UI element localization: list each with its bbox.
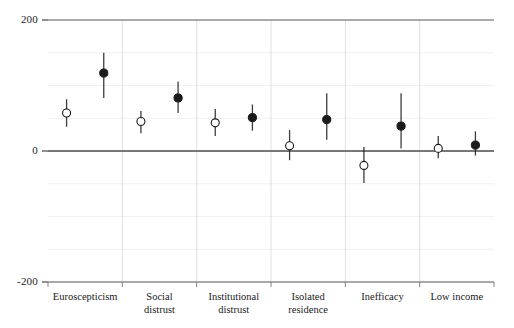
x-tick-label-4: Isolatedresidence	[271, 290, 345, 316]
filled-circle-marker	[248, 113, 256, 121]
y-tick-label-200: 200	[0, 13, 38, 25]
data-point-group	[100, 53, 108, 98]
data-point-group	[397, 93, 405, 148]
open-circle-marker	[360, 161, 368, 169]
data-point-group	[63, 99, 71, 127]
data-point-group	[286, 130, 294, 160]
open-circle-marker	[286, 142, 294, 150]
x-tick-label-line1: Euroscepticism	[48, 290, 122, 303]
y-tick-label-0: 0	[0, 144, 38, 156]
x-tick-label-1: Euroscepticism	[48, 290, 122, 303]
x-tick-label-line1: Social	[122, 290, 196, 303]
x-tick-label-5: Inefficacy	[345, 290, 419, 303]
data-point-group	[471, 131, 479, 155]
coefficient-plot	[0, 0, 514, 328]
x-tick-label-6: Low income	[420, 290, 494, 303]
x-tick-label-line2: distrust	[197, 303, 271, 316]
x-tick-label-line1: Isolated	[271, 290, 345, 303]
x-tick-label-line1: Institutional	[197, 290, 271, 303]
data-point-group	[434, 136, 442, 158]
filled-circle-marker	[174, 94, 182, 102]
filled-circle-marker	[471, 141, 479, 149]
x-tick-label-line1: Low income	[420, 290, 494, 303]
data-point-group	[323, 93, 331, 140]
open-circle-marker	[211, 119, 219, 127]
filled-circle-marker	[323, 115, 331, 123]
data-point-group	[248, 104, 256, 130]
x-tick-label-line2: distrust	[122, 303, 196, 316]
data-point-group	[137, 111, 145, 133]
x-tick-label-2: Socialdistrust	[122, 290, 196, 316]
chart-figure: 200 0 -200 EuroscepticismSocialdistrustI…	[0, 0, 514, 328]
x-tick-label-3: Institutionaldistrust	[197, 290, 271, 316]
data-point-group	[211, 109, 219, 136]
axis-ticks	[42, 20, 494, 287]
x-tick-label-line2: residence	[271, 303, 345, 316]
filled-circle-marker	[100, 69, 108, 77]
x-tick-label-line1: Inefficacy	[345, 290, 419, 303]
y-tick-label-neg200: -200	[0, 275, 38, 287]
open-circle-marker	[434, 144, 442, 152]
open-circle-marker	[137, 118, 145, 126]
filled-circle-marker	[397, 122, 405, 130]
data-point-group	[174, 82, 182, 113]
data-point-group	[360, 147, 368, 183]
open-circle-marker	[63, 109, 71, 117]
